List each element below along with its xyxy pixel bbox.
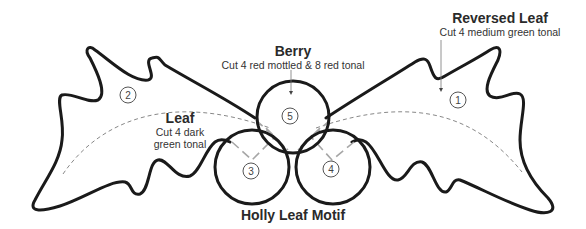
reversed-leaf-label: Reversed Leaf Cut 4 medium green tonal (415, 10, 585, 38)
berry-label: Berry Cut 4 red mottled & 8 red tonal (220, 43, 366, 71)
reversed-leaf-title: Reversed Leaf (415, 10, 585, 26)
svg-text:5: 5 (287, 111, 293, 122)
reversed-leaf-instruction: Cut 4 medium green tonal (415, 26, 585, 38)
leaf-right-outline (326, 48, 553, 213)
marker-5: 5 (282, 108, 298, 124)
leaf-title: Leaf (150, 110, 210, 126)
svg-text:4: 4 (328, 164, 334, 175)
leaf-instruction-line1: Cut 4 dark (150, 126, 210, 138)
marker-4: 4 (323, 161, 339, 177)
diagram-title: Holly Leaf Motif (0, 207, 586, 223)
berry-instruction: Cut 4 red mottled & 8 red tonal (220, 59, 366, 71)
berry-title: Berry (220, 43, 366, 59)
svg-text:1: 1 (455, 95, 461, 106)
marker-1: 1 (450, 92, 466, 108)
marker-3: 3 (243, 163, 259, 179)
svg-text:2: 2 (125, 90, 131, 101)
leaf-label: Leaf Cut 4 dark green tonal (150, 110, 210, 150)
leaf-instruction-line2: green tonal (150, 138, 210, 150)
marker-2: 2 (120, 87, 136, 103)
svg-text:3: 3 (248, 166, 254, 177)
reversed-leaf-arrow-icon (439, 40, 443, 92)
